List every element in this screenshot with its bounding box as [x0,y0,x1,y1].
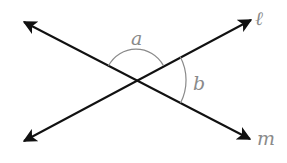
angle-a-label: a [131,27,142,49]
angle-b-label: b [193,72,205,94]
line-l-label: ℓ [255,7,263,29]
angle-b-arc [180,57,186,104]
intersecting-lines-diagram: a b ℓ m [0,0,287,163]
line-m-label: m [257,127,275,149]
angle-a-arc [109,49,164,66]
